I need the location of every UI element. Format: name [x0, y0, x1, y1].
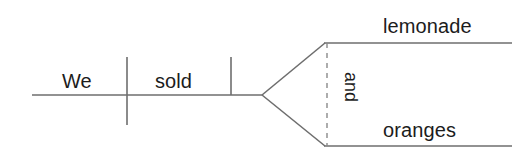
subject-label: We: [62, 70, 92, 92]
conjunction-fork-upper-branch: [262, 43, 325, 95]
object-first-label: lemonade: [383, 15, 472, 37]
conjunction-fork-lower-branch: [262, 95, 325, 146]
diagram-canvas: We sold lemonade oranges and: [0, 0, 532, 160]
conjunction-label: and: [341, 72, 361, 102]
verb-label: sold: [155, 70, 192, 92]
object-second-label: oranges: [383, 119, 456, 141]
sentence-diagram: We sold lemonade oranges and: [0, 0, 532, 160]
